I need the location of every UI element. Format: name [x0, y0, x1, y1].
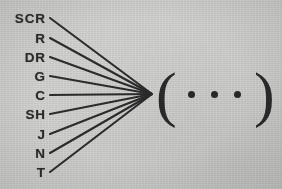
category-label: J: [38, 127, 46, 142]
ellipsis-dot: [234, 91, 241, 98]
category-label: DR: [25, 50, 46, 65]
category-label: T: [37, 165, 46, 180]
category-label: SH: [25, 107, 46, 122]
category-label: SCR: [15, 11, 46, 26]
category-label: N: [35, 146, 46, 161]
category-label: C: [35, 88, 46, 103]
open-paren: (: [156, 63, 177, 125]
ellipsis-dot: [211, 91, 218, 98]
connector-line: [50, 57, 152, 94]
ellipsis-dot: [188, 91, 195, 98]
category-label: G: [35, 69, 46, 84]
fan-diagram-figure: SCRRDRGCSHJNT ( ): [0, 0, 282, 189]
connector-line: [50, 94, 152, 172]
connector-line: [50, 94, 152, 153]
category-label: R: [35, 31, 46, 46]
close-paren: ): [254, 63, 275, 125]
connector-line: [50, 94, 152, 95]
connector-line: [50, 94, 152, 134]
connector-line: [50, 18, 152, 94]
